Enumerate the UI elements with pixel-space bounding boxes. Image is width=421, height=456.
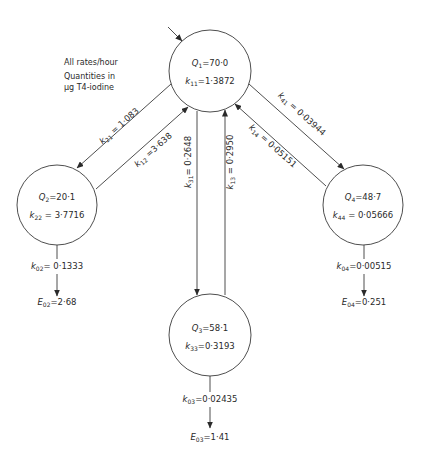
output-k02-label: k02= 0·1333 (31, 261, 83, 272)
compartment-q2-rate: k22 = 3·7716 (30, 210, 85, 221)
output-e02-label: E02=2·68 (37, 297, 76, 308)
transfer-k14-label: k14 = 0·05151 (247, 122, 299, 170)
output-k03-label: k03=0·02435 (183, 394, 238, 405)
note-quantities: Quantities in (64, 72, 115, 81)
compartment-q2-quantity: Q2=20·1 (39, 192, 76, 203)
output-e04-label: E04=0·251 (342, 297, 386, 308)
compartment-q4-quantity: Q4=48·7 (345, 192, 382, 203)
compartment-q3-quantity: Q3=58·1 (192, 323, 229, 334)
compartment-q4-circle (323, 165, 403, 245)
transfer-k21-label: k21 = 1·083 (97, 106, 141, 147)
compartment-q1-rate: k11=1·3872 (185, 76, 234, 87)
compartment-q3-circle (169, 294, 251, 376)
units-note: All rates/hour Quantities in μg T4-iodin… (64, 58, 119, 92)
note-rates: All rates/hour (64, 58, 119, 67)
compartment-q4-rate: k44 = 0·05666 (333, 210, 393, 221)
compartment-model-diagram: All rates/hour Quantities in μg T4-iodin… (0, 0, 421, 456)
input-arrow (168, 27, 182, 41)
output-k04-label: k04=0·00515 (337, 261, 392, 272)
compartment-q1-quantity: Q1=70·0 (192, 58, 229, 69)
transfer-k13-label: k13 = 0·2950 (225, 135, 236, 190)
transfer-k12-label: k12 =3·638 (132, 130, 174, 169)
compartment-q2: Q2=20·1 k22 = 3·7716 (17, 165, 97, 245)
compartment-q1-circle (169, 30, 251, 112)
transfer-k31-label: k31= 0·2648 (183, 136, 194, 188)
compartment-q3: Q3=58·1 k33=0·3193 (169, 294, 251, 376)
transfer-k12-arrow (96, 107, 188, 189)
compartment-q3-rate: k33=0·3193 (185, 341, 234, 352)
note-units: μg T4-iodine (64, 83, 114, 92)
transfer-k41-arrow (249, 84, 344, 169)
compartment-q2-circle (17, 165, 97, 245)
compartment-q4: Q4=48·7 k44 = 0·05666 (323, 165, 403, 245)
compartment-q1: Q1=70·0 k11=1·3872 (169, 30, 251, 112)
output-e03-label: E03=1·41 (190, 432, 229, 443)
